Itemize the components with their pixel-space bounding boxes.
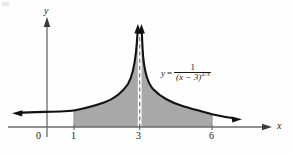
equation-denominator: (x − 3)2/3	[174, 73, 211, 82]
equation-equals: =	[167, 68, 172, 78]
graph-canvas	[0, 0, 292, 154]
y-axis-label: y	[44, 6, 48, 16]
x-tick-label-6: 6	[209, 131, 214, 141]
curve-right-tail-arrow-icon	[232, 117, 243, 123]
equation-lhs: y	[161, 68, 165, 78]
equation-fraction: 1 (x − 3)2/3	[174, 63, 211, 83]
x-axis-label: x	[277, 121, 281, 131]
x-axis-arrow-icon	[262, 124, 272, 131]
y-axis-arrow-icon	[44, 17, 51, 27]
x-tick-label-3: 3	[136, 131, 141, 141]
equation-denominator-base: (x − 3)	[176, 72, 201, 82]
figure-container: y x 0 1 3 6 y = 1 (x − 3)2/3	[0, 0, 292, 154]
curve-left-tail-arrow-icon	[12, 110, 23, 116]
origin-label: 0	[36, 131, 41, 141]
shaded-area-left	[74, 27, 138, 127]
equation-denominator-exponent: 2/3	[201, 70, 209, 77]
x-tick-label-1: 1	[71, 131, 76, 141]
equation-label: y = 1 (x − 3)2/3	[161, 63, 211, 83]
